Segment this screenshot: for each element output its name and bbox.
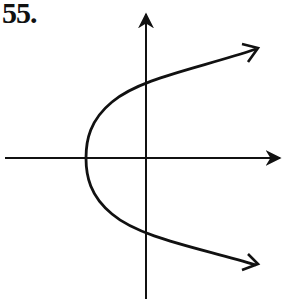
graph [0,0,286,299]
